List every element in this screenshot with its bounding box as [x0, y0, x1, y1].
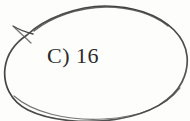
oval-closure-overlap	[14, 27, 31, 43]
scanned-answer-snippet: C) 16	[0, 0, 190, 121]
oval-start-tail	[13, 26, 33, 34]
oval-bottom-pressure-pass	[14, 88, 180, 119]
oval-top-pressure-pass	[34, 7, 168, 31]
answer-choice-text: C) 16	[0, 44, 190, 68]
